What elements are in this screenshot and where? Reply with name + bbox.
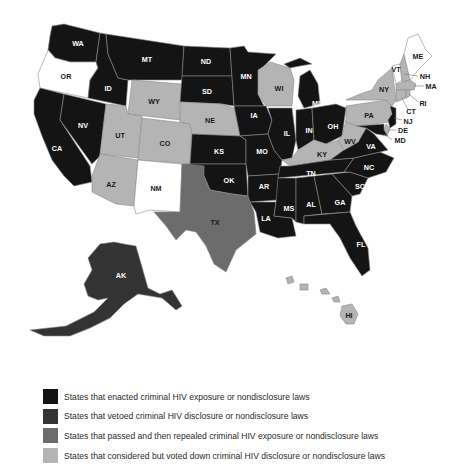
label-tx: TX	[210, 218, 219, 227]
leader-md	[384, 134, 392, 140]
label-mi: MI	[312, 99, 320, 108]
label-oh: OH	[328, 122, 339, 131]
legend-label: States that vetoed criminal HIV disclosu…	[64, 411, 308, 421]
label-nv: NV	[78, 121, 88, 130]
legend-label: States that considered but voted down cr…	[64, 451, 385, 461]
label-va: VA	[366, 142, 375, 151]
label-ny: NY	[379, 85, 389, 94]
label-wi: WI	[275, 84, 284, 93]
label-wv: WV	[344, 137, 356, 146]
label-or: OR	[61, 72, 73, 81]
label-nc: NC	[364, 163, 374, 172]
label-vt: VT	[391, 65, 401, 74]
label-ak: AK	[116, 271, 127, 280]
label-ms: MS	[284, 204, 295, 213]
label-nj: NJ	[403, 117, 412, 126]
label-ma: MA	[425, 82, 436, 91]
label-id: ID	[104, 84, 111, 93]
label-mn: MN	[240, 72, 251, 81]
label-co: CO	[160, 139, 171, 148]
label-al: AL	[306, 200, 316, 209]
label-il: IL	[284, 129, 291, 138]
label-ky: KY	[317, 150, 327, 159]
label-sc: SC	[355, 182, 365, 191]
legend-swatch-voted-down	[43, 448, 58, 463]
label-nd: ND	[201, 57, 211, 66]
label-nh: NH	[420, 72, 430, 81]
label-md: MD	[394, 136, 405, 145]
us-map: WA OR CA ID NV MT WY UT AZ CO NM ND SD N…	[0, 0, 454, 360]
state-ak	[30, 242, 182, 336]
legend-item-repealed: States that passed and then repealed cri…	[43, 426, 454, 446]
legend-item-vetoed: States that vetoed criminal HIV disclosu…	[43, 407, 454, 427]
label-mo: MO	[256, 147, 268, 156]
label-in: IN	[305, 126, 312, 135]
label-ga: GA	[335, 198, 346, 207]
label-mt: MT	[142, 55, 153, 64]
label-ca: CA	[52, 144, 62, 153]
label-ar: AR	[259, 182, 270, 191]
legend-label: States that enacted criminal HIV exposur…	[64, 392, 310, 402]
label-ia: IA	[250, 111, 257, 120]
label-me: ME	[413, 52, 424, 61]
label-ut: UT	[115, 131, 125, 140]
legend-swatch-vetoed	[43, 409, 58, 424]
label-nm: NM	[150, 184, 161, 193]
state-ms	[274, 178, 296, 222]
state-ct	[396, 90, 406, 102]
legend: States that enacted criminal HIV exposur…	[43, 387, 454, 465]
label-sd: SD	[202, 87, 212, 96]
label-de: DE	[398, 126, 408, 135]
legend-label: States that passed and then repealed cri…	[64, 431, 378, 441]
label-pa: PA	[364, 111, 373, 120]
label-ok: OK	[224, 176, 236, 185]
label-az: AZ	[106, 180, 116, 189]
legend-swatch-repealed	[43, 428, 58, 443]
label-la: LA	[261, 214, 271, 223]
label-fl: FL	[357, 240, 366, 249]
legend-swatch-enacted	[43, 389, 58, 404]
legend-item-voted-down: States that considered but voted down cr…	[43, 446, 454, 465]
legend-item-enacted: States that enacted criminal HIV exposur…	[43, 387, 454, 407]
label-ks: KS	[214, 147, 224, 156]
label-ne: NE	[205, 116, 215, 125]
label-wy: WY	[148, 97, 160, 106]
label-hi: HI	[345, 311, 352, 320]
label-wa: WA	[72, 39, 84, 48]
label-ri: RI	[419, 99, 426, 108]
label-ct: CT	[406, 107, 416, 116]
label-tn: TN	[306, 169, 316, 178]
leader-ri	[409, 94, 418, 102]
